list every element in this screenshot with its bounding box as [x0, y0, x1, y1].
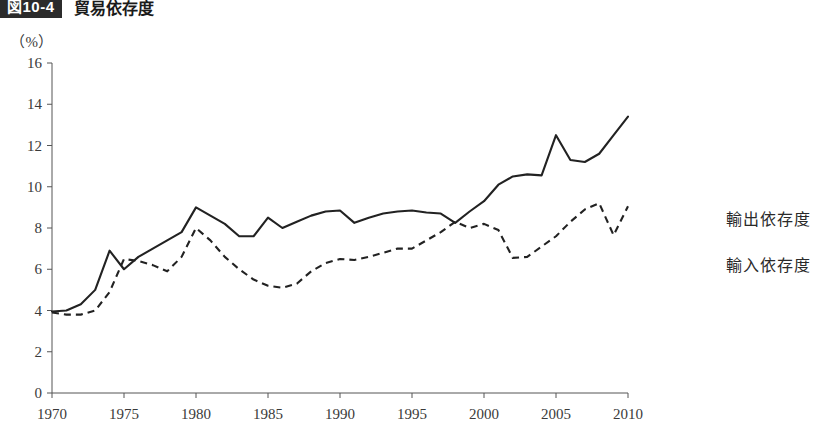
- svg-text:1995: 1995: [397, 406, 427, 422]
- series-line-export-dependency: [52, 203, 628, 314]
- svg-text:2005: 2005: [541, 406, 571, 422]
- chart-legend: 輸出依存度 輸入依存度: [660, 206, 811, 276]
- chart-page: 図10-4 貿易依存度 （%） 0246810121416 1970197519…: [0, 0, 818, 438]
- svg-text:6: 6: [35, 261, 43, 277]
- svg-text:12: 12: [27, 138, 42, 154]
- svg-text:1985: 1985: [253, 406, 283, 422]
- svg-text:16: 16: [27, 55, 43, 71]
- legend-label-export: 輸出依存度: [726, 206, 811, 230]
- svg-text:14: 14: [27, 96, 43, 112]
- legend-label-import: 輸入依存度: [726, 252, 811, 276]
- series-line-import-dependency: [52, 117, 628, 312]
- svg-text:1970: 1970: [37, 406, 67, 422]
- x-axis-ticks: 197019751980198519901995200020052010: [37, 393, 643, 422]
- svg-text:2000: 2000: [469, 406, 499, 422]
- svg-text:4: 4: [35, 303, 43, 319]
- legend-item-import: 輸入依存度: [660, 252, 811, 276]
- svg-text:1990: 1990: [325, 406, 355, 422]
- svg-text:8: 8: [35, 220, 43, 236]
- svg-text:1975: 1975: [109, 406, 139, 422]
- svg-text:2010: 2010: [613, 406, 643, 422]
- y-axis-ticks: 0246810121416: [27, 55, 52, 401]
- svg-text:0: 0: [35, 385, 43, 401]
- svg-text:10: 10: [27, 179, 42, 195]
- svg-text:1980: 1980: [181, 406, 211, 422]
- svg-text:2: 2: [35, 344, 43, 360]
- legend-item-export: 輸出依存度: [660, 206, 811, 230]
